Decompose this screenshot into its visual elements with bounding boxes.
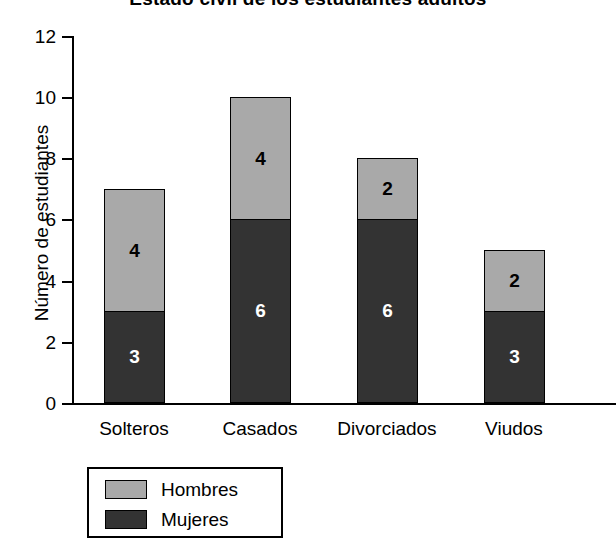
chart-legend: Hombres Mujeres bbox=[87, 467, 283, 538]
chart-page: { "chart_data": { "type": "bar", "subtyp… bbox=[0, 0, 616, 547]
y-tick-label-12: 12 bbox=[30, 27, 56, 46]
bar-segment-divorciados-hombres[interactable]: 2 bbox=[357, 158, 418, 220]
plot-area: 4 3 4 6 2 6 2 3 bbox=[72, 36, 616, 403]
legend-swatch-mujeres-icon bbox=[105, 510, 147, 529]
bar-value-label: 6 bbox=[382, 300, 393, 322]
bar-group-casados[interactable]: 4 6 bbox=[230, 97, 291, 403]
bar-segment-solteros-mujeres[interactable]: 3 bbox=[104, 311, 165, 403]
bar-value-label: 2 bbox=[509, 270, 520, 292]
bar-segment-casados-mujeres[interactable]: 6 bbox=[230, 219, 291, 403]
legend-label-mujeres: Mujeres bbox=[161, 510, 229, 529]
bar-value-label: 3 bbox=[129, 346, 140, 368]
bar-group-divorciados[interactable]: 2 6 bbox=[357, 158, 418, 403]
y-tick-label-0: 0 bbox=[30, 394, 56, 413]
bar-segment-divorciados-mujeres[interactable]: 6 bbox=[357, 219, 418, 403]
bar-value-label: 6 bbox=[255, 300, 266, 322]
page-title: Estado civil de los estudiantes adultos bbox=[0, 0, 616, 10]
bar-segment-viudos-mujeres[interactable]: 3 bbox=[484, 311, 545, 403]
legend-item-hombres[interactable]: Hombres bbox=[105, 476, 281, 503]
bar-segment-solteros-hombres[interactable]: 4 bbox=[104, 189, 165, 312]
bar-segment-viudos-hombres[interactable]: 2 bbox=[484, 250, 545, 312]
bar-group-solteros[interactable]: 4 3 bbox=[104, 189, 165, 403]
bar-value-label: 3 bbox=[509, 346, 520, 368]
bar-value-label: 4 bbox=[129, 240, 140, 262]
y-axis-title: Número de estudiantes bbox=[31, 93, 53, 353]
y-tick-mark-0 bbox=[62, 403, 74, 405]
legend-swatch-hombres-icon bbox=[105, 480, 147, 499]
legend-label-hombres: Hombres bbox=[161, 480, 238, 499]
bar-value-label: 4 bbox=[255, 148, 266, 170]
x-axis-line bbox=[62, 403, 616, 405]
legend-item-mujeres[interactable]: Mujeres bbox=[105, 506, 281, 533]
bar-value-label: 2 bbox=[382, 178, 393, 200]
x-axis-label-viudos: Viudos bbox=[434, 418, 594, 440]
bar-segment-casados-hombres[interactable]: 4 bbox=[230, 97, 291, 220]
bar-group-viudos[interactable]: 2 3 bbox=[484, 250, 545, 403]
